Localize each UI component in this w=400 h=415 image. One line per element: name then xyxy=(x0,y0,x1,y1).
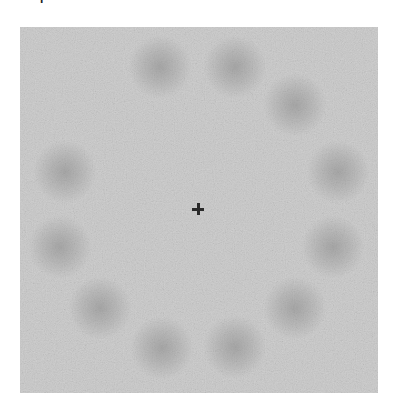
fixation-cross-icon xyxy=(192,203,204,215)
cropped-label: l xyxy=(40,0,50,4)
noise-stimulus-panel xyxy=(20,27,378,393)
blob xyxy=(306,140,370,204)
blob xyxy=(203,315,267,379)
blob xyxy=(130,316,194,380)
blob xyxy=(128,35,192,99)
blob xyxy=(263,73,327,137)
blob xyxy=(203,35,267,99)
blob xyxy=(301,215,365,279)
blob xyxy=(33,140,97,204)
blob xyxy=(28,215,92,279)
blob xyxy=(263,276,327,340)
blob xyxy=(68,276,132,340)
